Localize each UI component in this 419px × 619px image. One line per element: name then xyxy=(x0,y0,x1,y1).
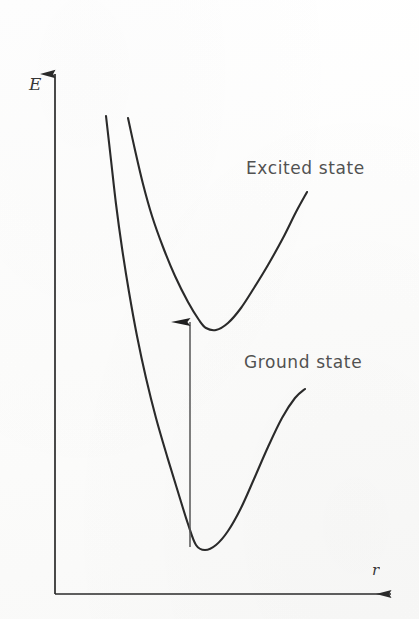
axes-group xyxy=(55,74,391,594)
distance-axis-label: r xyxy=(372,561,379,579)
plot-canvas xyxy=(0,0,419,619)
potential-energy-diagram: Excited state Ground state E r xyxy=(0,0,419,619)
excited-state-curve xyxy=(128,118,307,330)
curves-group xyxy=(106,116,307,550)
energy-axis-label: E xyxy=(29,74,41,94)
excited-state-label: Excited state xyxy=(246,158,365,178)
ground-state-label: Ground state xyxy=(244,352,362,372)
ground-state-curve xyxy=(106,116,305,550)
